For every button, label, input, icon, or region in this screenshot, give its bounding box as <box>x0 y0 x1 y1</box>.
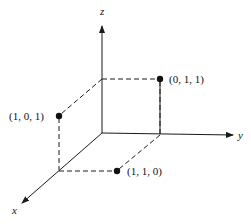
x-axis-label: x <box>11 204 17 216</box>
x-axis <box>22 133 102 203</box>
point-label-011: (0, 1, 1) <box>169 73 204 86</box>
y-axis <box>102 133 233 135</box>
point-011 <box>157 76 163 82</box>
point-110 <box>114 168 120 174</box>
y-axis-label: y <box>237 129 243 141</box>
point-label-110: (1, 1, 0) <box>127 165 162 178</box>
coordinate-diagram: (0, 1, 1) (1, 0, 1) (1, 1, 0) z y x <box>0 0 251 224</box>
point-101 <box>56 113 62 119</box>
z-axis-label: z <box>99 5 105 17</box>
guide-y1-to-110 <box>119 135 160 169</box>
guide-z1-to-101 <box>61 79 102 114</box>
point-label-101: (1, 0, 1) <box>9 110 44 123</box>
